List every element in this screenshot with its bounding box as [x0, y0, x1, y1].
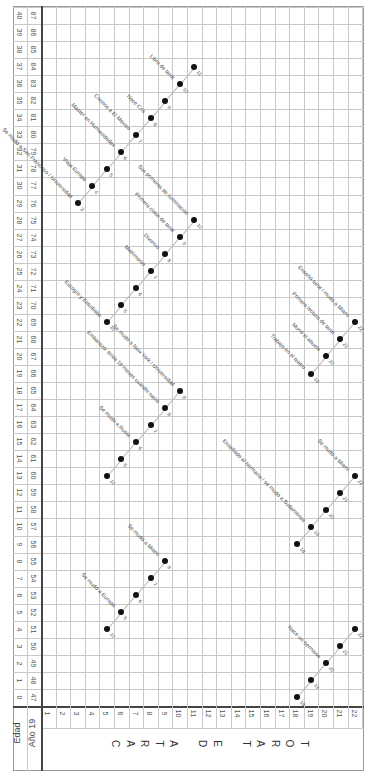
- event-dot[interactable]: [104, 473, 110, 479]
- year-label: 63: [27, 416, 41, 433]
- age-label: 19: [13, 365, 27, 382]
- event-dot[interactable]: [352, 473, 358, 479]
- title-letter: E: [211, 737, 222, 751]
- year-label: 71: [27, 280, 41, 297]
- card-number: 17: [275, 702, 289, 724]
- grid-col-line: [245, 6, 246, 728]
- grid-col-line: [202, 6, 203, 728]
- event-dot[interactable]: [133, 132, 139, 138]
- card-number: 22: [348, 702, 362, 724]
- year-label: 87: [27, 7, 41, 24]
- year-label: 83: [27, 75, 41, 92]
- grid-row-line: [13, 399, 364, 400]
- age-label: 23: [13, 297, 27, 314]
- grid-row-line: [13, 467, 364, 468]
- grid-row-line: [13, 655, 364, 656]
- event-dot[interactable]: [75, 200, 81, 206]
- grid-col-line: [56, 6, 57, 728]
- event-dot[interactable]: [294, 541, 300, 547]
- event-dot[interactable]: [148, 422, 154, 428]
- grid-col-line: [99, 6, 100, 728]
- header-column-divider: [41, 6, 43, 771]
- age-label: 16: [13, 416, 27, 433]
- event-dot[interactable]: [191, 64, 197, 70]
- age-label: 1: [13, 672, 27, 689]
- year-label: 54: [27, 570, 41, 587]
- age-label: 15: [13, 433, 27, 450]
- age-label: 38: [13, 41, 27, 58]
- title-letter: C: [110, 737, 121, 751]
- grid-row-line: [13, 263, 364, 264]
- event-dot[interactable]: [148, 268, 154, 274]
- year-label: 69: [27, 314, 41, 331]
- event-dot[interactable]: [177, 388, 183, 394]
- grid-row-line: [13, 331, 364, 332]
- grid-col-line: [260, 6, 261, 728]
- grid-row-line: [13, 484, 364, 485]
- grid-row-line: [13, 587, 364, 588]
- grid-row-line: [13, 638, 364, 639]
- year-label: 56: [27, 536, 41, 553]
- grid-col-line: [348, 6, 349, 728]
- age-label: 37: [13, 58, 27, 75]
- grid-row-line: [13, 348, 364, 349]
- age-label: 31: [13, 160, 27, 177]
- year-label: 52: [27, 604, 41, 621]
- card-number: 21: [333, 702, 347, 724]
- year-label: 84: [27, 58, 41, 75]
- grid-col-line: [187, 6, 188, 728]
- age-label: 18: [13, 382, 27, 399]
- card-number: 19: [304, 702, 318, 724]
- grid-row-line: [13, 672, 364, 673]
- event-dot[interactable]: [133, 439, 139, 445]
- grid-row-line: [13, 246, 364, 247]
- year-label: 64: [27, 399, 41, 416]
- year-label: 51: [27, 621, 41, 638]
- card-number: 9: [158, 702, 172, 724]
- age-label: 26: [13, 246, 27, 263]
- event-dot[interactable]: [323, 507, 329, 513]
- grid-row-line: [13, 126, 364, 127]
- year-label: 58: [27, 501, 41, 518]
- event-dot[interactable]: [104, 626, 110, 632]
- card-number: 2: [56, 702, 70, 724]
- year-label: 76: [27, 195, 41, 212]
- title-letter: R: [139, 737, 150, 751]
- title-letter: R: [269, 737, 280, 751]
- year-label: 82: [27, 92, 41, 109]
- age-label: 28: [13, 212, 27, 229]
- event-dot[interactable]: [148, 115, 154, 121]
- grid-row-line: [13, 229, 364, 230]
- event-dot[interactable]: [177, 234, 183, 240]
- grid-col-line: [318, 6, 319, 728]
- card-number: 12: [202, 702, 216, 724]
- age-label: 27: [13, 229, 27, 246]
- card-number: 8: [143, 702, 157, 724]
- card-number: 20: [318, 702, 332, 724]
- event-dot[interactable]: [177, 81, 183, 87]
- age-label: 14: [13, 450, 27, 467]
- year-label: 48: [27, 672, 41, 689]
- card-number: 15: [245, 702, 259, 724]
- year-label: 59: [27, 484, 41, 501]
- grid-row-line: [13, 536, 364, 537]
- event-dot[interactable]: [148, 575, 154, 581]
- event-dot[interactable]: [104, 166, 110, 172]
- year-label: 60: [27, 467, 41, 484]
- grid-row-line: [13, 177, 364, 178]
- grid-col-line: [333, 6, 334, 728]
- year-label: 81: [27, 109, 41, 126]
- grid-row-line: [13, 570, 364, 571]
- grid-row-line: [13, 24, 364, 25]
- event-dot[interactable]: [162, 405, 168, 411]
- event-dot[interactable]: [162, 98, 168, 104]
- age-label: 0: [13, 689, 27, 706]
- age-label: 22: [13, 314, 27, 331]
- grid-row-line: [13, 382, 364, 383]
- grid-col-line: [231, 6, 232, 728]
- grid-row-line: [13, 143, 364, 144]
- title-letter: A: [124, 737, 135, 751]
- age-label: 34: [13, 109, 27, 126]
- event-dot[interactable]: [308, 371, 314, 377]
- age-label: 11: [13, 501, 27, 518]
